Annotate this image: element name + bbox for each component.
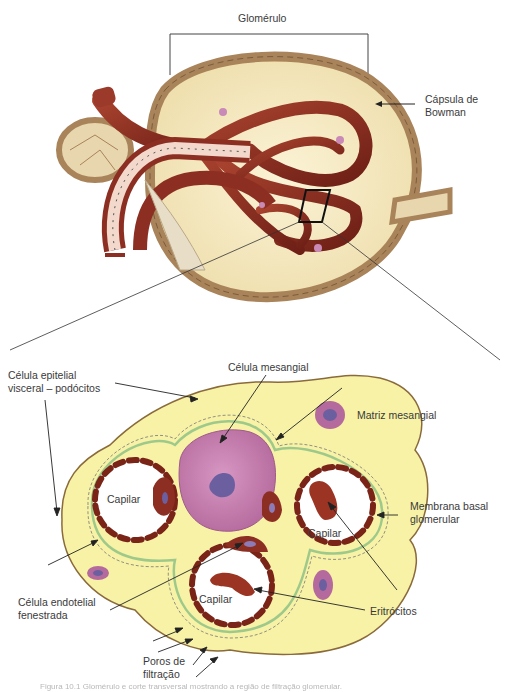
label-line: Célula epitelial — [8, 369, 100, 382]
label-line: Célula mesangial — [228, 361, 309, 374]
glomerulo-title: Glomérulo — [238, 12, 286, 25]
label-line: Membrana basal — [410, 500, 488, 513]
label-line: Bowman — [425, 106, 478, 119]
label-line: Cápsula de — [425, 93, 478, 106]
label-line: Célula endotelial — [18, 596, 96, 609]
label-mesangial-matrix: Matriz mesangial — [357, 409, 436, 422]
label-line: Eritrócitos — [370, 605, 417, 618]
label-mesangial-cell: Célula mesangial — [228, 361, 309, 374]
label-filtration-pores: Poros de filtração — [143, 655, 185, 681]
label-line: visceral – podócitos — [8, 382, 100, 395]
label-capillary-bottom: Capilar — [199, 593, 232, 605]
label-line: glomerular — [410, 513, 488, 526]
label-basal-membrane: Membrana basal glomerular — [410, 500, 488, 526]
label-podocytes: Célula epitelial visceral – podócitos — [8, 369, 100, 395]
label-line: Poros de — [143, 655, 185, 668]
zoom-leader-right — [322, 222, 500, 360]
figure-caption: Figura 10.1 Glomérulo e corte transversa… — [40, 682, 500, 691]
label-capillary-right: Capilar — [308, 527, 341, 539]
label-line: Matriz mesangial — [357, 409, 436, 422]
label-endothelial-cell: Célula endotelial fenestrada — [18, 596, 96, 622]
label-capillary-left: Capilar — [107, 493, 140, 505]
label-line: filtração — [143, 668, 185, 681]
label-bowman-capsule: Cápsula de Bowman — [425, 93, 478, 119]
label-line: fenestrada — [18, 609, 96, 622]
label-erythrocytes: Eritrócitos — [370, 605, 417, 618]
glomerulus-diagram: Glomérulo Cápsula de Bowman Célula epite… — [0, 0, 509, 692]
